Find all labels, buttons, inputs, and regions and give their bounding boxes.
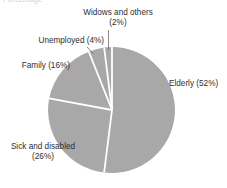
pie-chart-figure: Percentage Widows and others (2%) Unempl…	[0, 0, 227, 188]
pie-label-unemployed: Unemployed (4%)	[24, 36, 104, 46]
pie-label-sick-and-disabled: Sick and disabled (26%)	[2, 142, 84, 162]
pie-slice-elderly	[104, 47, 175, 173]
pie-label-elderly: Elderly (52%)	[169, 79, 227, 89]
pie-label-widows-and-others: Widows and others (2%)	[81, 8, 155, 28]
pie-label-family: Family (16%)	[2, 61, 70, 71]
